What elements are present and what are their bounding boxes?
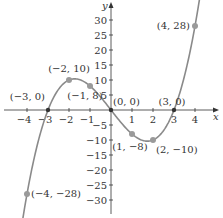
data-point-label: (−2, 10) <box>48 63 90 74</box>
y-tick-label: 15 <box>94 60 107 71</box>
x-axis-title: x <box>213 111 219 122</box>
y-tick-label: −5 <box>92 120 107 131</box>
y-tick-label: −25 <box>86 180 107 191</box>
data-point-marker <box>46 108 50 112</box>
data-point-label: (−1, 8) <box>67 90 102 101</box>
data-point-label: (4, 28) <box>157 20 190 31</box>
y-tick-label: −20 <box>86 165 107 176</box>
data-point-marker <box>129 131 135 137</box>
data-point-label: (1, −8) <box>112 141 147 152</box>
data-point-marker <box>192 23 198 29</box>
y-tick-label: 20 <box>94 45 107 56</box>
data-point-label: (0, 0) <box>113 96 140 107</box>
x-tick-label: −4 <box>17 114 32 125</box>
y-tick-label: −30 <box>86 195 107 206</box>
data-point-label: (−3, 0) <box>10 91 45 102</box>
data-point-label: (2, −10) <box>156 144 198 155</box>
data-point-marker <box>87 83 93 89</box>
data-point-marker <box>66 77 72 83</box>
data-point-marker <box>172 108 176 112</box>
y-tick-label: 30 <box>94 15 107 26</box>
x-tick-label: 4 <box>192 114 198 125</box>
y-tick-label: −10 <box>86 135 107 146</box>
data-point-marker <box>109 108 113 112</box>
y-axis-arrow-icon <box>109 2 114 8</box>
y-axis-title: y <box>101 0 108 11</box>
axes: xy−4−3−2−1123430252015105−5−10−15−20−25−… <box>4 0 219 214</box>
x-tick-label: 2 <box>150 114 156 125</box>
data-point-marker <box>150 137 156 143</box>
data-point-marker <box>24 191 30 197</box>
data-point-label: (−4, −28) <box>31 188 81 199</box>
y-tick-label: 10 <box>94 75 107 86</box>
x-tick-label: −2 <box>59 114 74 125</box>
y-tick-label: 25 <box>94 30 107 41</box>
cubic-function-graph: xy−4−3−2−1123430252015105−5−10−15−20−25−… <box>0 0 223 218</box>
y-tick-label: −15 <box>86 150 107 161</box>
data-point-label: (3, 0) <box>159 96 186 107</box>
x-tick-label: 1 <box>129 114 135 125</box>
